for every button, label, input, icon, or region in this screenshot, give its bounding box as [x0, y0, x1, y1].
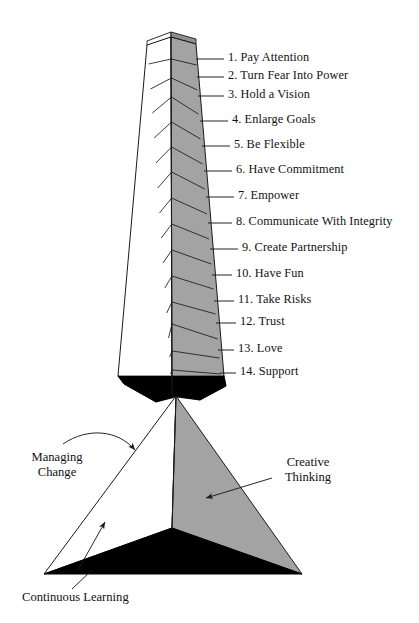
tower-label-4: 4. Enlarge Goals: [232, 113, 316, 126]
tower-label-3: 3. Hold a Vision: [228, 88, 310, 101]
creative-thinking-line-2: Thinking: [266, 470, 350, 485]
tower-left-face: [118, 37, 172, 394]
diagram-canvas: 1. Pay Attention 2. Turn Fear Into Power…: [0, 0, 419, 623]
tower-label-8: 8. Communicate With Integrity: [236, 215, 393, 228]
managing-change-label: Managing Change: [14, 450, 100, 480]
tower-label-6: 6. Have Commitment: [236, 163, 344, 176]
tower-label-11: 11. Take Risks: [238, 293, 311, 306]
diagram-artwork: [0, 0, 419, 623]
tower-label-14: 14. Support: [240, 365, 299, 378]
tower-right-face: [171, 37, 224, 394]
tower-label-7: 7. Empower: [238, 189, 299, 202]
tower-label-1: 1. Pay Attention: [228, 51, 309, 64]
tower-label-5: 5. Be Flexible: [234, 138, 305, 151]
tower-label-10: 10. Have Fun: [236, 267, 304, 280]
tower-label-13: 13. Love: [238, 342, 283, 355]
tower-label-12: 12. Trust: [240, 315, 285, 328]
creative-thinking-label: Creative Thinking: [266, 455, 350, 485]
tower-label-9: 9. Create Partnership: [242, 241, 348, 254]
tower-group: [118, 32, 226, 402]
managing-change-arrow: [63, 433, 135, 450]
creative-thinking-line-1: Creative: [266, 455, 350, 470]
pyramid-group: [44, 396, 302, 574]
tower-label-2: 2. Turn Fear Into Power: [228, 69, 348, 82]
managing-change-line-2: Change: [14, 465, 100, 480]
continuous-learning-label: Continuous Learning: [22, 590, 129, 605]
managing-change-line-1: Managing: [14, 450, 100, 465]
